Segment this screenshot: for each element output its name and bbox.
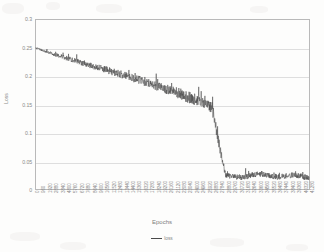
x-axis-tick-label: 18240 (157, 181, 162, 193)
x-axis-tick-label: 4800 (67, 183, 72, 193)
x-axis-tick-label: 8640 (93, 183, 98, 193)
x-axis-tick-label: 41280 (310, 181, 315, 193)
plot-area (35, 19, 310, 190)
x-axis-title: Epochs (0, 219, 324, 225)
x-axis-tick-label: 9600 (99, 183, 104, 193)
scan-artifact (60, 242, 86, 250)
series-layer (36, 20, 309, 189)
x-axis-tick-label: 25920 (208, 181, 213, 193)
x-axis-tick-label: 15360 (137, 181, 142, 193)
x-axis-tick-label: 14400 (131, 181, 136, 193)
y-axis-tick-label: 0.05 (22, 159, 32, 165)
scan-artifact (2, 3, 24, 14)
y-axis-tick-label: 0.1 (25, 130, 32, 136)
x-axis-tick-label: 12480 (118, 181, 123, 193)
x-axis-tick-label: 17280 (150, 181, 155, 193)
loss-chart: 00.050.10.150.20.250.3 Loss 096019202880… (0, 0, 324, 252)
y-axis-tick-label: 0.15 (22, 102, 32, 108)
y-axis-tick-label: 0 (29, 187, 32, 193)
y-axis-title: Loss (3, 93, 9, 104)
x-axis-tick-label: 32640 (252, 181, 257, 193)
x-axis-tick-label: 11520 (112, 181, 117, 193)
x-axis-tick-label: 36480 (278, 181, 283, 193)
x-axis-tick-label: 30720 (240, 181, 245, 193)
x-axis-tick-label: 26880 (214, 181, 219, 193)
x-axis-tick-label: 24960 (201, 181, 206, 193)
x-axis-tick-label: 33600 (259, 181, 264, 193)
x-axis-tick-label: 2880 (54, 183, 59, 193)
y-axis-tick-label: 0.25 (22, 45, 32, 51)
scan-artifact (96, 4, 122, 13)
x-axis-tick-label: 0 (35, 191, 40, 193)
loss-series-line (36, 48, 309, 180)
x-axis-tick-label: 22080 (182, 181, 187, 193)
x-axis-tick-label: 21120 (176, 181, 181, 193)
y-axis-tick-label: 0.3 (25, 16, 32, 22)
x-axis-tick-label: 3840 (61, 183, 66, 193)
legend-color-swatch (151, 238, 162, 240)
scan-artifact (250, 6, 268, 13)
scan-artifact (46, 2, 60, 10)
x-axis-tick-label: 7680 (86, 183, 91, 193)
x-axis-tick-label: 20160 (169, 181, 174, 193)
y-axis-tick-label: 0.2 (25, 73, 32, 79)
x-axis-tick-label: 35520 (272, 181, 277, 193)
x-axis-tick-label: 6720 (80, 183, 85, 193)
scan-artifact (286, 244, 308, 251)
x-axis-tick-label: 19200 (163, 181, 168, 193)
x-axis-tick-label: 29760 (233, 181, 238, 193)
x-axis-tick-label: 28800 (227, 181, 232, 193)
x-axis-tick-label: 39360 (297, 181, 302, 193)
x-axis-tick-label: 16320 (144, 181, 149, 193)
x-axis-tick-label: 24000 (195, 181, 200, 193)
x-axis-tick-label: 960 (41, 186, 46, 193)
chart-legend: loss (0, 236, 324, 241)
legend-label: loss (164, 236, 173, 241)
x-axis-tick-label: 10560 (105, 181, 110, 193)
x-axis-tick-label: 38400 (291, 181, 296, 193)
x-axis-tick-label: 34560 (265, 181, 270, 193)
x-axis-tick-label: 13440 (125, 181, 130, 193)
x-axis-tick-label: 23040 (188, 181, 193, 193)
x-axis-tick-label: 37440 (284, 181, 289, 193)
x-axis-tick-label: 27840 (220, 181, 225, 193)
x-axis-tick-label: 31680 (246, 181, 251, 193)
x-axis-tick-label: 5760 (73, 183, 78, 193)
x-axis-tick-label: 1920 (48, 183, 53, 193)
x-axis-tick-label: 40320 (304, 181, 309, 193)
